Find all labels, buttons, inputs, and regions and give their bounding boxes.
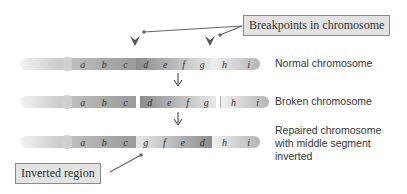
normal-label: Normal chromosome <box>275 57 372 70</box>
repaired-label: Repaired chromosome with middle segment … <box>275 124 381 163</box>
breakpoint-arrow-icon <box>205 36 215 46</box>
broken-label: Broken chromosome <box>275 95 372 108</box>
breakpoints-callout: Breakpoints in chromosome <box>243 15 390 36</box>
inverted-region-callout: Inverted region <box>15 163 101 184</box>
breakpoint-arrow-icon <box>130 36 140 46</box>
